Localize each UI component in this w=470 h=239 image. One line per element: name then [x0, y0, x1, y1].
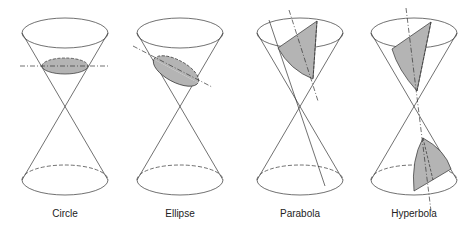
ellipse-section: [149, 50, 203, 93]
circle-double-cone: [20, 18, 110, 195]
hyperbola-lower-branch: [413, 138, 451, 191]
parabola-double-cone: [257, 10, 343, 195]
hyperbola-double-cone: [371, 8, 457, 211]
conic-sections-figure: [0, 0, 470, 239]
label-hyperbola: Hyperbola: [364, 208, 464, 219]
parabola-section: [278, 21, 317, 79]
label-ellipse: Ellipse: [130, 208, 230, 219]
ellipse-double-cone: [133, 18, 223, 195]
label-parabola: Parabola: [250, 208, 350, 219]
label-circle: Circle: [15, 208, 115, 219]
hyperbola-upper-branch: [392, 22, 431, 91]
